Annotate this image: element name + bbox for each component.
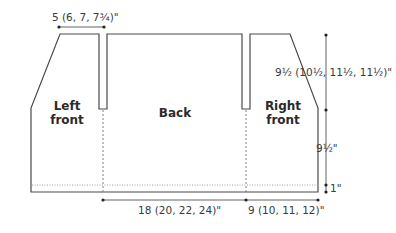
- seam-lines: [103, 110, 246, 192]
- back-label: Back: [159, 106, 192, 120]
- shoulder-width-label: 5 (6, 7, 7¾)": [52, 11, 119, 23]
- hem-label: 1": [330, 182, 342, 194]
- left-front-label-line1: Left: [54, 99, 81, 113]
- left-front-label-line2: front: [50, 113, 84, 127]
- bottom-dimension: 18 (20, 22, 24)" 9 (10, 11, 12)": [101, 198, 324, 216]
- right-front-label-line1: Right: [265, 99, 301, 113]
- right-front-label-line2: front: [266, 113, 300, 127]
- shoulder-dimension: 5 (6, 7, 7¾)": [52, 11, 119, 29]
- front-width-label: 9 (10, 11, 12)": [248, 204, 324, 216]
- armhole-depth-label: 9½ (10½, 11½, 11½)": [275, 66, 392, 78]
- back-width-label: 18 (20, 22, 24)": [138, 204, 221, 216]
- piece-labels: Left front Back Right front: [50, 99, 301, 127]
- schematic-diagram: 5 (6, 7, 7¾)" 9½ (10½, 11½, 11½)" 9½" 1"…: [0, 0, 396, 233]
- body-length-label: 9½": [316, 142, 338, 154]
